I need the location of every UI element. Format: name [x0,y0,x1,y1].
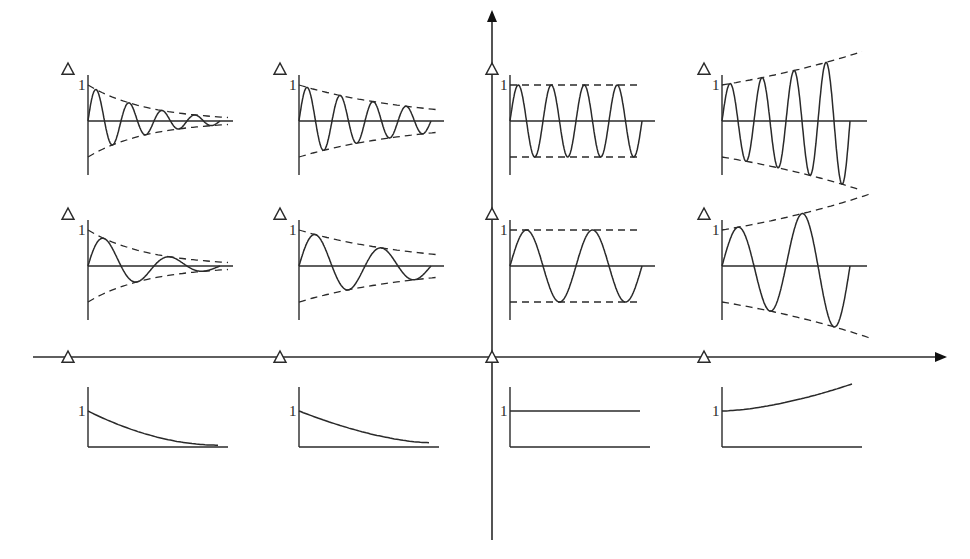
response-curve [299,235,431,290]
response-curve [299,411,429,443]
root-marker-triangle-icon [486,63,498,74]
response-plot-row3-col3 [510,387,650,447]
unit-label: 1 [289,77,297,93]
unit-label: 1 [78,222,86,238]
root-marker-triangle-icon [698,208,710,219]
unit-label: 1 [500,222,508,238]
unit-label: 1 [500,77,508,93]
response-plot-row3-col1 [88,387,228,447]
unit-label: 1 [289,222,297,238]
lower-envelope [88,270,228,303]
response-plot-row2-col4 [722,193,872,338]
upper-envelope [299,230,439,255]
response-plot-row1-col1 [88,75,233,175]
response-curve [722,384,852,411]
response-curve [722,62,850,184]
response-curve [88,238,220,282]
root-markers [62,63,710,362]
response-plot-row1-col3 [510,75,655,175]
unit-label: 1 [78,403,86,419]
response-plot-row2-col1 [88,220,233,320]
unit-label: 1 [712,403,720,419]
response-plot-row3-col4 [722,384,862,447]
main-axes [33,12,945,540]
response-curve [88,90,220,145]
response-curve [722,214,850,327]
unit-label: 1 [712,222,720,238]
root-marker-triangle-icon [62,63,74,74]
response-plot-row1-col4 [722,52,867,191]
upper-envelope [722,52,862,85]
unit-label: 1 [500,403,508,419]
unit-label: 1 [289,403,297,419]
response-curve [299,87,431,150]
root-locus-response-diagram: 111111111111 [0,0,970,559]
root-marker-triangle-icon [274,208,286,219]
lower-envelope [722,157,862,190]
upper-envelope [88,230,228,263]
root-marker-triangle-icon [486,208,498,219]
lower-envelope [722,302,872,339]
subplots: 111111111111 [78,52,872,447]
response-plot-row2-col2 [299,220,444,320]
response-plot-row2-col3 [510,220,655,320]
root-marker-triangle-icon [698,63,710,74]
unit-label: 1 [712,77,720,93]
upper-envelope [722,193,872,230]
unit-label: 1 [78,77,86,93]
response-plot-row3-col2 [299,387,439,447]
root-marker-triangle-icon [274,63,286,74]
lower-envelope [299,277,439,302]
root-marker-triangle-icon [62,208,74,219]
response-curve [88,411,218,445]
response-plot-row1-col2 [299,75,444,175]
